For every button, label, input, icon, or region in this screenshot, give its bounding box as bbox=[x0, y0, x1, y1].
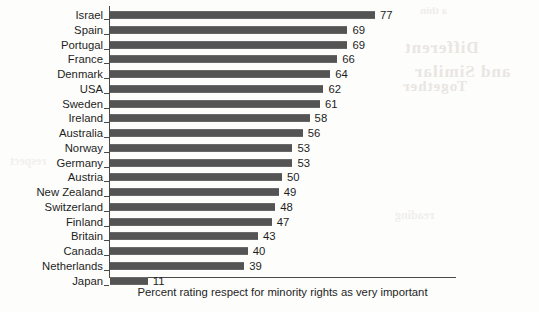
bar-row: Austria50 bbox=[0, 170, 539, 185]
bar-value-label: 77 bbox=[380, 8, 393, 23]
category-label: Canada bbox=[63, 244, 103, 259]
bar bbox=[110, 159, 292, 167]
bar-row: Ireland58 bbox=[0, 111, 539, 126]
category-label: Portugal bbox=[61, 38, 103, 53]
bar-row: Sweden61 bbox=[0, 97, 539, 112]
axis-tick bbox=[104, 63, 109, 64]
bar bbox=[110, 129, 303, 137]
bar-value-label: 66 bbox=[342, 52, 355, 67]
bar-rows: Israel77Spain69Portugal69France66Denmark… bbox=[0, 8, 539, 288]
bar bbox=[110, 262, 244, 270]
category-label: Germany bbox=[57, 156, 103, 171]
bar bbox=[110, 100, 320, 108]
bar-row: Israel77 bbox=[0, 8, 539, 23]
bar-value-label: 61 bbox=[325, 97, 338, 112]
bar-row: Germany53 bbox=[0, 156, 539, 171]
axis-tick bbox=[104, 34, 109, 35]
axis-tick bbox=[104, 137, 109, 138]
bar-value-label: 49 bbox=[284, 185, 297, 200]
bar bbox=[110, 218, 272, 226]
bar-row: Denmark64 bbox=[0, 67, 539, 82]
bar-value-label: 48 bbox=[280, 200, 293, 215]
bar-value-label: 50 bbox=[287, 170, 300, 185]
bar bbox=[110, 247, 248, 255]
bar-row: Britain43 bbox=[0, 229, 539, 244]
axis-tick bbox=[104, 181, 109, 182]
bar bbox=[110, 85, 323, 93]
category-label: Sweden bbox=[62, 97, 103, 112]
bar-value-label: 62 bbox=[328, 82, 341, 97]
bar-value-label: 39 bbox=[249, 259, 262, 274]
axis-tick bbox=[104, 152, 109, 153]
bar-value-label: 53 bbox=[297, 156, 310, 171]
bar bbox=[110, 26, 347, 34]
bar bbox=[110, 173, 282, 181]
bar-value-label: 43 bbox=[263, 229, 276, 244]
bar bbox=[110, 232, 258, 240]
category-label: Finland bbox=[66, 215, 103, 230]
bar-value-label: 56 bbox=[308, 126, 321, 141]
axis-tick bbox=[104, 211, 109, 212]
chart-page: Different and Similar Together a thin re… bbox=[0, 0, 539, 312]
bar-chart: Israel77Spain69Portugal69France66Denmark… bbox=[0, 0, 539, 312]
axis-tick bbox=[104, 255, 109, 256]
category-label: Netherlands bbox=[42, 259, 103, 274]
category-label: Australia bbox=[59, 126, 103, 141]
category-label: Spain bbox=[74, 23, 103, 38]
bar bbox=[110, 277, 148, 285]
axis-tick bbox=[104, 167, 109, 168]
bar-row: Netherlands39 bbox=[0, 259, 539, 274]
axis-tick bbox=[104, 270, 109, 271]
bar-value-label: 47 bbox=[277, 215, 290, 230]
bar-value-label: 58 bbox=[315, 111, 328, 126]
bar-row: Portugal69 bbox=[0, 38, 539, 53]
axis-tick bbox=[104, 93, 109, 94]
bar-row: Finland47 bbox=[0, 215, 539, 230]
axis-tick bbox=[104, 196, 109, 197]
bar bbox=[110, 144, 292, 152]
category-label: Britain bbox=[71, 229, 103, 244]
bar-row: Canada40 bbox=[0, 244, 539, 259]
bar bbox=[110, 203, 275, 211]
category-label: USA bbox=[80, 82, 103, 97]
axis-tick bbox=[104, 122, 109, 123]
bar bbox=[110, 41, 347, 49]
category-label: Japan bbox=[72, 274, 103, 289]
bar bbox=[110, 55, 337, 63]
bar-row: USA62 bbox=[0, 82, 539, 97]
bar-value-label: 69 bbox=[352, 23, 365, 38]
axis-tick bbox=[104, 226, 109, 227]
category-label: France bbox=[68, 52, 103, 67]
bar-row: France66 bbox=[0, 52, 539, 67]
axis-tick bbox=[104, 108, 109, 109]
bar-row: Norway53 bbox=[0, 141, 539, 156]
bar bbox=[110, 114, 310, 122]
axis-tick bbox=[104, 240, 109, 241]
category-label: Austria bbox=[68, 170, 103, 185]
bar bbox=[110, 188, 279, 196]
bar bbox=[110, 11, 375, 19]
category-label: Denmark bbox=[57, 67, 103, 82]
axis-tick bbox=[104, 19, 109, 20]
bar-value-label: 53 bbox=[297, 141, 310, 156]
bar-value-label: 40 bbox=[253, 244, 266, 259]
category-label: Norway bbox=[65, 141, 103, 156]
category-label: Switzerland bbox=[45, 200, 103, 215]
bar-row: Spain69 bbox=[0, 23, 539, 38]
axis-tick bbox=[104, 49, 109, 50]
bar-row: New Zealand49 bbox=[0, 185, 539, 200]
axis-tick bbox=[104, 78, 109, 79]
category-label: Israel bbox=[75, 8, 103, 23]
x-axis-caption: Percent rating respect for minority righ… bbox=[109, 286, 456, 298]
bar-value-label: 64 bbox=[335, 67, 348, 82]
bar-row: Switzerland48 bbox=[0, 200, 539, 215]
category-label: Ireland bbox=[68, 111, 103, 126]
bar-row: Australia56 bbox=[0, 126, 539, 141]
category-label: New Zealand bbox=[36, 185, 103, 200]
bar-value-label: 69 bbox=[352, 38, 365, 53]
bar bbox=[110, 70, 330, 78]
